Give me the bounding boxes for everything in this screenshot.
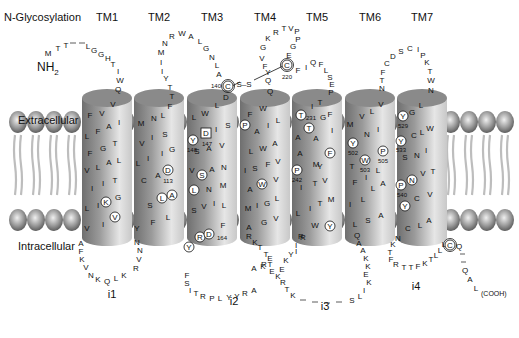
lipid-head xyxy=(45,209,63,231)
residue: F xyxy=(328,110,333,119)
residue: V xyxy=(322,176,328,185)
lipid-tail xyxy=(32,135,34,195)
residue: L xyxy=(161,111,166,120)
svg-text:P: P xyxy=(242,121,247,130)
highlighted-residue: S xyxy=(197,170,207,180)
lipid-tail xyxy=(507,135,509,195)
residue: K xyxy=(424,58,430,67)
residue: M xyxy=(245,204,252,213)
highlighted-residue: A xyxy=(167,190,177,200)
residue: I xyxy=(102,179,104,188)
residue-number: 540 xyxy=(397,192,408,198)
residue: F xyxy=(263,62,268,71)
residue: C xyxy=(407,44,413,53)
residue: T xyxy=(111,60,116,69)
residue: F xyxy=(296,66,301,75)
residue: R xyxy=(242,289,248,298)
highlighted-residue: C220 xyxy=(281,59,294,81)
residue: K xyxy=(265,34,271,43)
residue: N xyxy=(151,114,157,123)
svg-text:P: P xyxy=(294,166,299,175)
residue-number: 220 xyxy=(282,74,293,80)
residue: T xyxy=(113,139,118,148)
svg-text:P: P xyxy=(398,181,403,190)
residue: T xyxy=(285,285,290,294)
residue: N xyxy=(221,163,227,172)
residue: Q xyxy=(267,87,273,96)
residue: L xyxy=(117,156,122,165)
residue: K xyxy=(365,262,371,271)
residue: V xyxy=(84,224,90,233)
residue: L xyxy=(296,209,301,218)
svg-text:F: F xyxy=(328,149,333,158)
residue: S xyxy=(147,201,152,210)
residue-number: 533 xyxy=(396,147,407,153)
lipid-tail xyxy=(483,135,485,195)
residue: L xyxy=(114,274,119,283)
residue: V xyxy=(139,139,145,148)
svg-text:W: W xyxy=(258,180,266,189)
highlighted-residue: L xyxy=(157,193,167,203)
residue-number: 503 xyxy=(360,167,371,173)
residue: T xyxy=(428,67,433,76)
svg-text:C: C xyxy=(284,61,290,70)
residue: G xyxy=(91,46,97,55)
residue: V xyxy=(259,54,265,63)
lipid-head xyxy=(478,209,496,231)
residue: T xyxy=(313,179,318,188)
lipid-tail xyxy=(471,135,473,195)
lipid-head xyxy=(63,209,81,231)
residue: R xyxy=(246,232,252,241)
helix-tm2 xyxy=(134,89,184,246)
highlighted-residue: N xyxy=(407,175,417,185)
highlighted-residue: Y xyxy=(400,201,410,211)
residue: I xyxy=(118,118,120,127)
lipid-tail xyxy=(465,135,467,195)
residue: N xyxy=(134,238,140,247)
highlighted-residue: R xyxy=(195,232,205,242)
residue: I xyxy=(160,58,162,67)
residue: V xyxy=(275,157,281,166)
residue: T xyxy=(350,162,355,171)
lipid-tail xyxy=(56,135,58,195)
residue: L xyxy=(353,220,358,229)
loop-label: i2 xyxy=(230,295,239,307)
residue-number: 231 xyxy=(306,115,317,121)
residue: R xyxy=(300,233,306,242)
residue: A xyxy=(188,32,194,41)
residue: G xyxy=(100,144,106,153)
receptor-topology-diagram: N-Glycosylation TM1TM2TM3TM4TM5TM6TM7 Ex… xyxy=(0,0,519,338)
residue: L xyxy=(474,284,479,293)
residue: T xyxy=(56,44,61,53)
svg-text:D: D xyxy=(165,166,171,175)
residue: S xyxy=(252,164,257,173)
svg-text:P: P xyxy=(380,147,385,156)
residue: A xyxy=(272,139,278,148)
residue: L xyxy=(419,101,424,110)
residue: W xyxy=(426,124,434,133)
residue: V xyxy=(359,112,365,121)
residue: R xyxy=(133,264,139,273)
residue: I xyxy=(161,149,163,158)
lipid-head xyxy=(496,209,514,231)
residue: S xyxy=(191,206,196,215)
residue: K xyxy=(260,262,266,271)
residue: G xyxy=(169,145,175,154)
residue: T xyxy=(318,199,323,208)
residue: T xyxy=(113,176,118,185)
residue: I xyxy=(244,166,246,175)
svg-text:R: R xyxy=(197,233,203,242)
residue: F xyxy=(88,149,93,158)
residue: I xyxy=(363,286,365,295)
lipid-head xyxy=(460,209,478,231)
residue: I xyxy=(311,102,313,111)
loop-labels: i1i2i3i4 xyxy=(108,280,421,312)
residue: I xyxy=(213,199,215,208)
residue: I xyxy=(215,125,217,134)
lipid-tail xyxy=(501,135,503,195)
residue: I xyxy=(102,220,104,229)
residue: V xyxy=(219,141,225,150)
residue: I xyxy=(151,133,153,142)
residue: V xyxy=(427,190,433,199)
residue: L xyxy=(420,128,425,137)
